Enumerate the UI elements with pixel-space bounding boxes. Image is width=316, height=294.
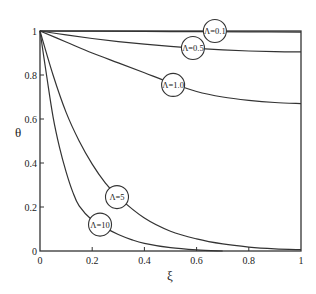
x-tick-label: 1 [299,255,304,266]
curve-label-text: Λ=10 [90,220,109,230]
curves [40,31,301,251]
curve-label-text: Λ=1.0 [162,80,184,90]
x-tick-label: 0 [38,255,43,266]
y-tick-label: 0.2 [25,202,38,213]
chart: 00.20.40.60.8100.20.40.60.81 Λ=0.1Λ=0.5Λ… [0,0,316,294]
y-tick-label: 0.4 [25,158,38,169]
curve-labels: Λ=0.1Λ=0.5Λ=1.0Λ=5Λ=10 [89,20,227,237]
x-tick-label: 0.4 [138,255,151,266]
curve-label-badge: Λ=0.1 [203,20,226,43]
curve-0_5 [40,31,301,52]
curve-10 [40,31,223,251]
y-tick-label: 1 [32,26,37,37]
x-axis-label: ξ [167,268,173,283]
y-tick-label: 0 [32,246,37,257]
curve-5 [40,31,301,250]
x-tick-label: 0.8 [243,255,256,266]
x-tick-label: 0.2 [86,255,99,266]
curve-label-badge: Λ=0.5 [181,36,204,59]
y-tick-label: 0.6 [25,114,38,125]
curve-label-text: Λ=0.1 [204,26,226,36]
curve-label-badge: Λ=10 [89,213,112,236]
curve-label-text: Λ=5 [109,192,124,202]
curve-label-badge: Λ=5 [105,186,128,209]
x-tick-label: 0.6 [190,255,203,266]
y-tick-label: 0.8 [25,70,38,81]
axis-ticks: 00.20.40.60.8100.20.40.60.81 [25,26,304,267]
curve-label-badge: Λ=1.0 [162,73,185,96]
curve-label-text: Λ=0.5 [182,43,204,53]
y-axis-label: θ [15,125,21,140]
